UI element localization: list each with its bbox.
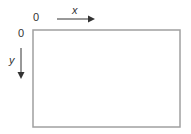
origin-x-label: 0 [33,12,39,23]
coordinate-diagram [0,0,191,134]
y-axis-label: y [9,55,15,66]
y-axis-arrow [18,48,25,79]
x-axis-arrow [57,16,95,23]
origin-y-label: 0 [18,28,24,39]
x-axis-label: x [72,5,78,16]
screen-frame [33,30,180,127]
